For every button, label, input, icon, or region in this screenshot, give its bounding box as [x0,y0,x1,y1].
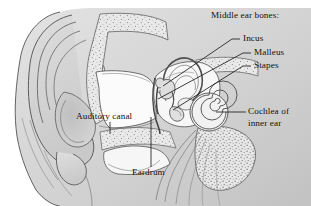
label-cochlea-line2: inner ear [248,118,281,129]
ear-anatomy-figure: Middle ear bones: Incus Malleus Stapes A… [0,0,311,206]
label-eardrum: Eardrum [132,167,165,178]
label-stapes: Stapes [254,60,279,71]
label-malleus: Malleus [254,47,284,58]
label-incus: Incus [243,33,263,44]
label-middle-ear-bones-heading: Middle ear bones: [211,10,279,21]
label-auditory-canal: Auditory canal [76,111,132,122]
label-cochlea-line1: Cochlea of [248,106,289,117]
